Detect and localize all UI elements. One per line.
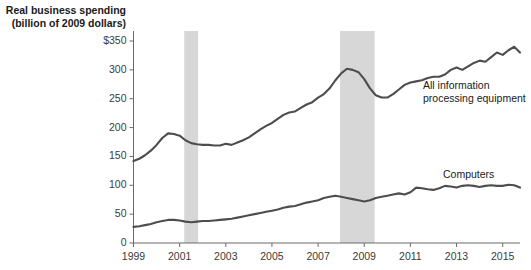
y-tick-label: 200 [81, 122, 127, 133]
x-tick-label: 2005 [252, 251, 292, 262]
series-label-computers: Computers [443, 168, 494, 181]
y-tick-label: 100 [81, 179, 127, 190]
x-tick-label: 1999 [114, 251, 154, 262]
x-tick-label: 2011 [390, 251, 430, 262]
x-tick-label: 2001 [160, 251, 200, 262]
x-tick-label: 2003 [206, 251, 246, 262]
x-tick-label: 2015 [483, 251, 523, 262]
y-tick-label: 0 [81, 237, 127, 248]
chart-figure: Real business spending (billion of 2009 … [0, 0, 531, 270]
x-tick-label: 2013 [437, 251, 477, 262]
x-tick-label: 2007 [298, 251, 338, 262]
y-tick-label: 50 [81, 208, 127, 219]
y-tick-label: 150 [81, 150, 127, 161]
recession-band [184, 31, 198, 243]
recession-band [340, 31, 375, 243]
x-tick-label: 2009 [344, 251, 384, 262]
series-label-all-information-processing-equipment: All information processing equipment [423, 79, 526, 105]
y-tick-label: 300 [81, 64, 127, 75]
y-axis-title: Real business spending (billion of 2009 … [0, 4, 126, 30]
y-tick-label: 250 [81, 93, 127, 104]
y-tick-label: $350 [81, 35, 127, 46]
